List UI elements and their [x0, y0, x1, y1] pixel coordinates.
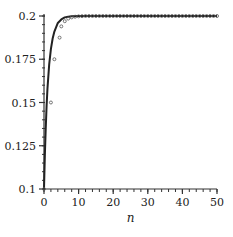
chart: 0.10.1250.150.1750.2 01020304050 n: [0, 0, 233, 237]
y-tick-label: 0.15: [12, 97, 37, 110]
x-tick-label: 20: [106, 196, 120, 209]
x-axis-label: n: [127, 211, 135, 225]
x-tick-label: 50: [210, 196, 224, 209]
data-point: [53, 58, 56, 61]
x-tick-label: 30: [141, 196, 155, 209]
data-point: [58, 36, 61, 39]
x-axis: 01020304050: [41, 189, 225, 209]
data-point: [60, 25, 63, 28]
x-tick-label: 0: [41, 196, 48, 209]
data-point: [49, 101, 52, 104]
x-tick-label: 10: [72, 196, 86, 209]
data-points: [43, 15, 219, 191]
data-point: [63, 20, 66, 23]
y-tick-label: 0.175: [5, 53, 37, 66]
x-tick-label: 40: [175, 196, 189, 209]
continuous-curve: [44, 16, 217, 189]
y-tick-label: 0.2: [19, 10, 37, 23]
y-tick-label: 0.125: [5, 140, 37, 153]
y-tick-label: 0.1: [19, 183, 37, 196]
y-axis: 0.10.1250.150.1750.2: [5, 10, 46, 196]
